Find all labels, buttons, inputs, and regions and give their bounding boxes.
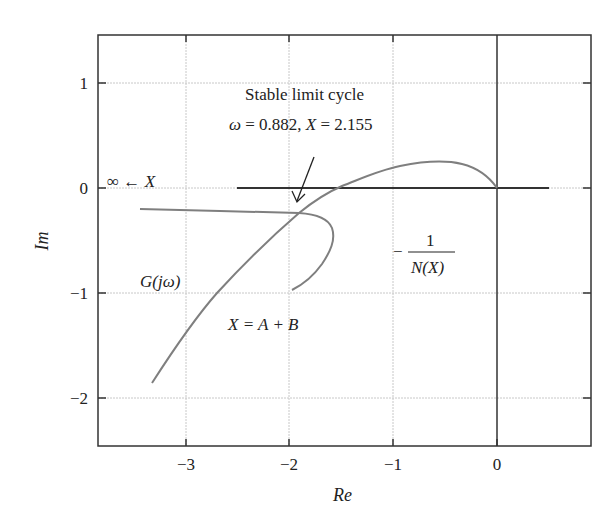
omega-symbol: ω: [229, 115, 241, 134]
x-tick-neg3: −3: [166, 456, 206, 473]
infinity-x-symbol: X: [145, 172, 155, 191]
y-tick-neg2: −2: [58, 390, 88, 407]
y-tick-neg1: −1: [58, 285, 88, 302]
annotation-infinity-x: ∞ ← X: [107, 173, 155, 190]
x-tick-0: 0: [477, 456, 517, 473]
annotation-fraction-numerator: 1: [426, 232, 435, 249]
omega-value: = 0.882,: [241, 115, 306, 134]
y-axis-label: Im: [33, 232, 51, 251]
annotation-fraction-denominator: N(X): [411, 259, 444, 276]
x-value: = 2.155: [316, 115, 372, 134]
x-symbol: X: [306, 115, 316, 134]
x-tick-neg2: −2: [269, 456, 309, 473]
x-tick-neg1: −1: [373, 456, 413, 473]
x-axis-label: Re: [333, 486, 352, 504]
y-tick-1: 1: [58, 75, 88, 92]
annotation-limit-cycle-values: ω = 0.882, X = 2.155: [229, 116, 373, 133]
annotation-stable-limit-cycle: Stable limit cycle: [245, 86, 364, 103]
series-g-jw: [152, 162, 497, 383]
annotation-x-a-plus-b: X = A + B: [228, 316, 298, 333]
y-tick-0: 0: [58, 180, 88, 197]
annotation-minus-sign: −: [393, 243, 403, 260]
infinity-arrow-text: ∞ ←: [107, 172, 145, 191]
annotation-g-jw: G(jω): [140, 273, 180, 290]
plot-canvas: [0, 0, 615, 526]
limit-cycle-arrow-icon: [292, 157, 314, 202]
